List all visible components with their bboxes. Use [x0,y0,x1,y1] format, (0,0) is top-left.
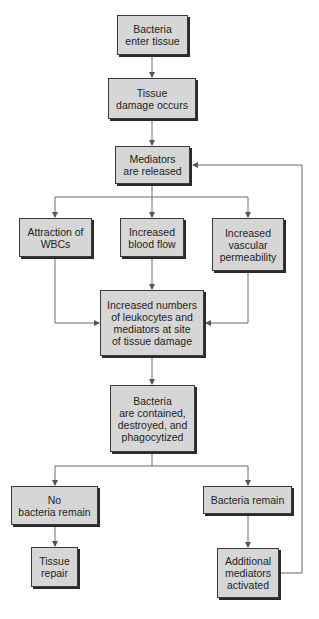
node-additional-mediators-activated: Additional mediators activated [217,548,279,598]
node-bacteria-contained: Bacteria are contained, destroyed, and p… [110,385,195,452]
node-attraction-of-wbcs: Attraction of WBCs [19,218,92,257]
edge-vascular-to-increased-numbers [206,271,248,323]
edge-attraction-to-increased-numbers [55,257,99,323]
node-increased-vascular-permeability: Increased vascular permeability [212,218,284,271]
node-tissue-repair: Tissue repair [31,547,78,587]
node-mediators-released: Mediators are released [115,146,190,184]
node-bacteria-remain: Bacteria remain [203,486,292,514]
node-bacteria-enter-tissue: Bacteria enter tissue [117,15,188,55]
node-no-bacteria-remain: No bacteria remain [11,486,98,525]
node-increased-numbers-leukocytes: Increased numbers of leukocytes and medi… [100,290,204,356]
node-increased-blood-flow: Increased blood flow [120,218,184,257]
node-tissue-damage-occurs: Tissue damage occurs [108,78,196,119]
